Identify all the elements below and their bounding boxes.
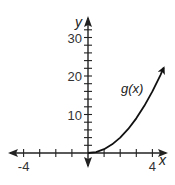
- y-tick-label: 10: [68, 108, 82, 123]
- series-label: g(x): [121, 81, 143, 96]
- x-axis-label: x: [158, 152, 167, 168]
- x-tick-label: 4: [149, 159, 156, 174]
- y-tick-label: 20: [68, 69, 82, 84]
- y-tick-label: 30: [68, 31, 82, 46]
- y-axis-label: y: [74, 14, 83, 30]
- x-tick-label: -4: [18, 159, 30, 174]
- function-graph: -44102030xyg(x): [0, 0, 175, 185]
